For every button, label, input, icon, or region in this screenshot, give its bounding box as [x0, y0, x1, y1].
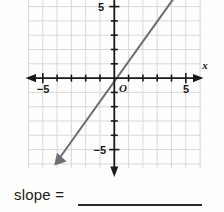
origin-label: O	[119, 82, 127, 94]
x-tick-label-neg5: −5	[37, 83, 50, 95]
coordinate-plane-figure: −5 5 5 −5 O x	[0, 0, 224, 180]
answer-row: slope =	[0, 180, 224, 212]
worksheet-page: −5 5 5 −5 O x slope =	[0, 0, 224, 212]
y-tick-label-pos5: 5	[98, 1, 104, 13]
y-axis-arrow-down	[110, 167, 118, 178]
slope-answer-blank[interactable]	[78, 204, 202, 206]
x-axis-label: x	[201, 59, 208, 71]
y-tick-label-neg5: −5	[93, 144, 106, 156]
x-tick-label-pos5: 5	[183, 83, 189, 95]
slope-prompt-label: slope =	[14, 186, 64, 203]
coordinate-plane-svg: −5 5 5 −5 O x	[0, 0, 224, 180]
